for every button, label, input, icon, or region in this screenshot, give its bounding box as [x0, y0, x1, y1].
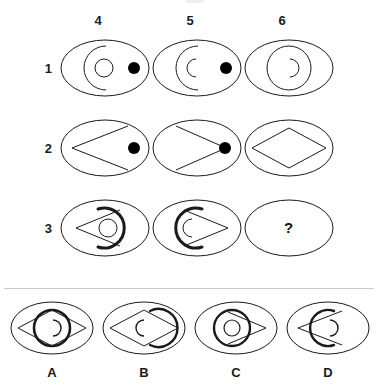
option-d[interactable]	[284, 298, 372, 358]
diamond-icon	[252, 128, 326, 168]
cell-r1-c5	[150, 36, 244, 100]
column-label-6: 6	[272, 14, 292, 27]
small-c-arc-open-right-icon	[183, 219, 192, 237]
cell-r3-c6-question: ?	[242, 196, 336, 260]
small-circle	[95, 59, 113, 77]
small-c-arc-open-left-icon	[330, 320, 338, 336]
cell-r2-c5	[150, 116, 244, 180]
cell-r2-c4	[58, 116, 152, 180]
cell-r1-c4	[58, 36, 152, 100]
filled-dot	[219, 142, 231, 154]
filled-dot	[128, 142, 140, 154]
left-chevron-icon	[72, 126, 128, 170]
option-c-label: C	[221, 366, 251, 379]
outer-ellipse	[245, 40, 333, 96]
option-c[interactable]	[192, 298, 280, 358]
cell-r1-c6	[242, 36, 336, 100]
row-label-3: 3	[36, 222, 52, 235]
left-chevron-icon	[298, 311, 342, 345]
left-chevron-icon	[76, 210, 120, 246]
question-mark: ?	[284, 219, 293, 236]
right-chevron-icon	[176, 126, 226, 170]
small-circle	[99, 219, 117, 237]
option-d-label: D	[313, 366, 343, 379]
option-b-label: B	[129, 366, 159, 379]
small-c-arc-open-right-icon	[187, 59, 196, 77]
thick-circle	[214, 310, 250, 346]
small-c-arc-open-right-icon	[136, 320, 144, 336]
filled-dot	[128, 62, 140, 74]
column-label-4: 4	[88, 14, 108, 27]
row-label-2: 2	[36, 142, 52, 155]
diamond-icon	[18, 310, 86, 346]
option-a-label: A	[37, 366, 67, 379]
small-c-arc-open-left-icon	[53, 320, 61, 336]
diamond-icon	[110, 310, 178, 346]
option-b[interactable]	[100, 298, 188, 358]
cell-r2-c6	[242, 116, 336, 180]
row-label-1: 1	[36, 62, 52, 75]
scan-artifact	[186, 0, 204, 3]
cell-r3-c5	[150, 196, 244, 260]
thick-arc-right-icon	[150, 309, 177, 347]
thick-circle	[34, 310, 70, 346]
filled-dot	[220, 62, 232, 74]
right-chevron-icon	[184, 210, 228, 246]
option-a[interactable]	[8, 298, 96, 358]
matrix-puzzle-figure: 4 5 6 1 2 3	[0, 0, 378, 390]
thick-c-arc-open-right-icon	[176, 208, 202, 248]
cell-r3-c4	[58, 196, 152, 260]
medium-circle	[267, 46, 311, 90]
small-c-arc-open-left-icon	[290, 59, 299, 77]
section-divider	[4, 288, 374, 289]
small-circle	[224, 320, 240, 336]
column-label-5: 5	[180, 14, 200, 27]
